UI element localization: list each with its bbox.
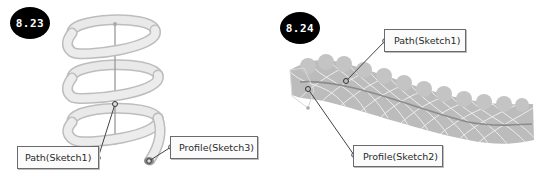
profile-callout-label: Profile(Sketch2) [353,145,443,167]
path-callout-label: Path(Sketch1) [384,29,466,52]
figure-number-badge: 8.24 [280,12,320,44]
path-callout-label: Path(Sketch1) [17,146,99,169]
figure-8-24: 8.24 Path(Sketch1) Profile(Sketch2) [268,0,535,183]
figure-number-badge: 8.23 [10,7,50,39]
profile-callout-label: Profile(Sketch3) [170,136,258,159]
figure-8-23: 8.23 Path(Sketch1) Profile(Sketch3) [0,0,268,183]
